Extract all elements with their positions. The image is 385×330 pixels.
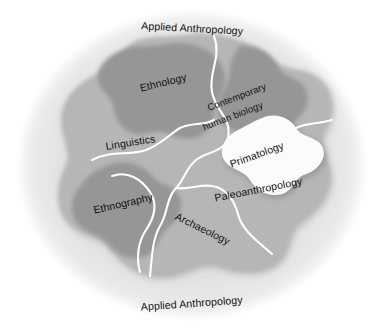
anthropology-diagram: Applied Anthropology Applied Anthropolog… <box>0 0 385 330</box>
diagram-canvas: Applied Anthropology Applied Anthropolog… <box>0 0 385 330</box>
